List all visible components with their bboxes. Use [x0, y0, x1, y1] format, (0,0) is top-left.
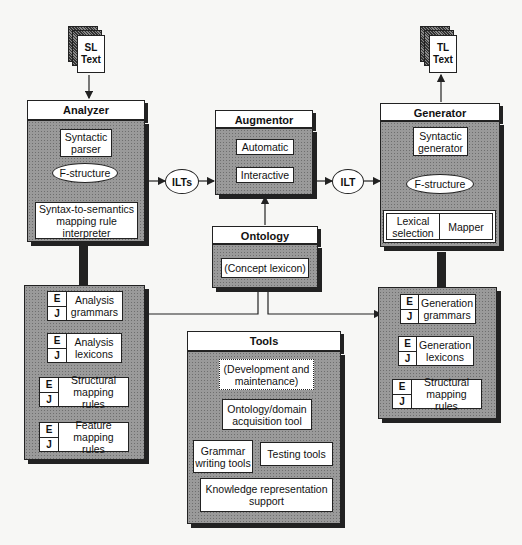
text-label: Text [430, 54, 456, 66]
syntactic-generator-box: Syntactic generator [413, 127, 468, 156]
f-structure-ellipse: F-structure [406, 174, 474, 194]
mapper-box: Mapper [440, 213, 493, 240]
resource-item: EJ Generation grammars [400, 294, 476, 324]
ilts-node: ILTs [165, 169, 199, 194]
resource-label: Generation grammars [419, 295, 475, 323]
tl-text-document: TL Text [429, 35, 457, 73]
ilt-node: ILT [332, 169, 364, 194]
lang-e: E [48, 292, 66, 307]
interactive-box: Interactive [236, 167, 294, 183]
lang-e: E [401, 295, 418, 310]
testing-tools-box: Testing tools [260, 442, 333, 466]
grammar-writing-tools-box: Grammar writing tools [193, 440, 253, 473]
analyzer-header: Analyzer [27, 100, 145, 120]
resource-item: EJ Feature mapping rules [39, 422, 129, 452]
generator-header: Generator [380, 103, 500, 121]
tl-label: TL [430, 42, 456, 54]
text-label: Text [78, 54, 104, 66]
resource-item: EJ Structural mapping rules [39, 377, 129, 407]
ontology-acquisition-tool-box: Ontology/domain acquisition tool [222, 399, 312, 430]
resource-label: Analysis grammars [67, 292, 122, 320]
lang-e: E [399, 337, 416, 352]
dev-maintenance-box: (Development and maintenance) [219, 359, 314, 390]
lang-j: J [399, 352, 416, 366]
lang-j: J [40, 393, 58, 407]
resource-label: Structural mapping rules [59, 378, 128, 406]
lang-j: J [401, 310, 418, 324]
tools-header: Tools [187, 331, 341, 351]
resource-label: Analysis lexicons [67, 334, 121, 362]
lang-j: J [48, 349, 66, 363]
kr-support-box: Knowledge representation support [200, 478, 333, 512]
lang-e: E [40, 423, 58, 438]
resource-item: EJ Analysis lexicons [47, 333, 122, 363]
lang-j: J [393, 395, 411, 409]
sl-label: SL [78, 42, 104, 54]
lang-e: E [40, 378, 58, 393]
lang-e: E [393, 380, 411, 395]
lexical-mapper-group: Lexical selection Mapper [383, 210, 496, 243]
sl-text-document: SL Text [77, 35, 105, 73]
f-structure-ellipse: F-structure [52, 163, 118, 183]
lang-j: J [48, 307, 66, 321]
concept-lexicon-box: (Concept lexicon) [221, 258, 309, 278]
automatic-box: Automatic [236, 139, 294, 155]
resource-label: Structural mapping rules [412, 380, 481, 408]
resource-item: EJ Structural mapping rules [392, 379, 482, 409]
ontology-header: Ontology [212, 226, 318, 244]
augmentor-header: Augmentor [215, 110, 313, 128]
mapping-interpreter-box: Syntax-to-semantics mapping rule interpr… [35, 202, 138, 239]
lexical-selection-box: Lexical selection [386, 213, 440, 240]
lang-j: J [40, 438, 58, 452]
resource-label: Generation lexicons [417, 337, 473, 365]
resource-item: EJ Generation lexicons [398, 336, 474, 366]
lang-e: E [48, 334, 66, 349]
resource-item: EJ Analysis grammars [47, 291, 123, 321]
syntactic-parser-box: Syntactic parser [60, 129, 112, 157]
resource-label: Feature mapping rules [59, 423, 128, 451]
